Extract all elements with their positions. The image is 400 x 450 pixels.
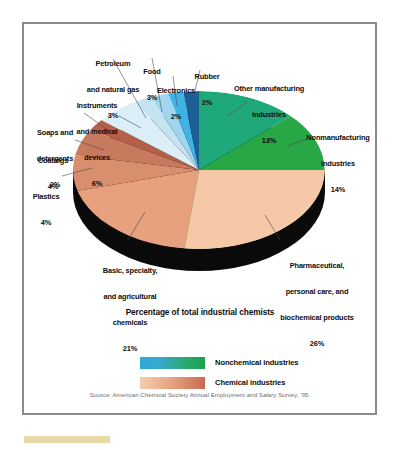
chart-title: Percentage of total industrial chemists xyxy=(0,307,400,317)
legend-swatch-chemical xyxy=(140,377,205,389)
legend-item-nonchemical: Nonchemical industries xyxy=(140,355,360,370)
source-note: Source: American Chemical Society Annual… xyxy=(0,391,400,398)
legend-label-nonchemical: Nonchemical industries xyxy=(215,358,298,367)
label-pharmaceutical: Pharmaceutical, personal care, and bioch… xyxy=(262,245,372,357)
label-basic-chemicals: Basic, specialty, and agricultural chemi… xyxy=(76,250,184,362)
legend-swatch-nonchemical xyxy=(140,357,205,369)
legend-item-chemical: Chemical industries xyxy=(140,375,360,390)
label-plastics: Plastics 4% xyxy=(22,176,70,236)
accent-bar xyxy=(24,436,110,443)
chart-legend: Nonchemical industries Chemical industri… xyxy=(140,355,360,395)
label-nonmanufacturing: Nonmanufacturing industries 14% xyxy=(298,117,378,203)
legend-label-chemical: Chemical industries xyxy=(215,378,285,387)
